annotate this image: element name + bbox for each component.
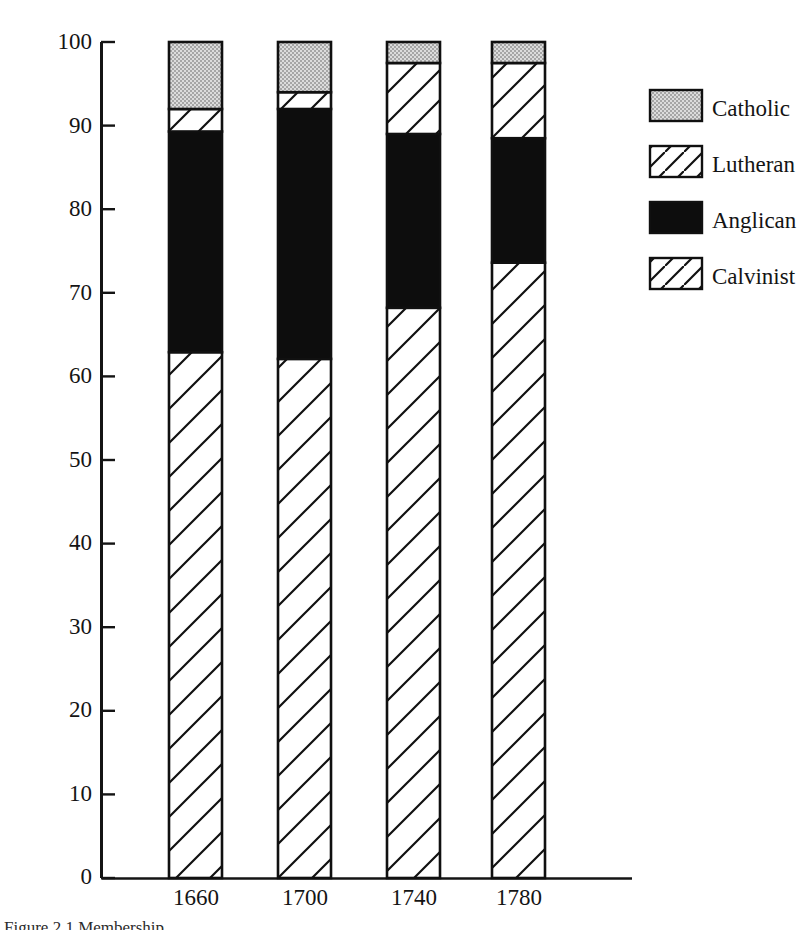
bar-1780-segment-calvinist <box>492 263 545 878</box>
legend-swatch-lutheran <box>650 146 702 177</box>
bar-1740-segment-catholic <box>387 42 440 63</box>
legend-item-calvinist: Calvinist <box>712 254 795 300</box>
bar-1740-segment-calvinist <box>387 308 440 878</box>
legend-label-anglican: Anglican <box>712 209 796 233</box>
bar-1740-segment-lutheran <box>387 63 440 134</box>
bar-1700 <box>278 42 331 878</box>
bar-1660 <box>169 42 222 878</box>
bar-1700-segment-calvinist <box>278 359 331 878</box>
bar-1780 <box>492 42 545 878</box>
legend-swatch-catholic <box>650 90 702 121</box>
bar-1700-segment-anglican <box>278 109 331 359</box>
bar-1660-segment-catholic <box>169 42 222 109</box>
bar-1700-segment-lutheran <box>278 92 331 109</box>
legend-item-anglican: Anglican <box>712 198 796 244</box>
plot-area <box>0 0 799 930</box>
bar-1780-segment-lutheran <box>492 63 545 138</box>
y-axis-ticks <box>101 42 115 878</box>
legend-swatch-calvinist <box>650 258 702 289</box>
figure-stacked-bar-chart: Percentage 100 90 80 70 60 50 40 30 20 1… <box>0 0 799 930</box>
legend-label-lutheran: Lutheran <box>712 153 795 177</box>
bar-1660-segment-anglican <box>169 132 222 353</box>
bar-1660-segment-lutheran <box>169 109 222 132</box>
legend-swatch-anglican <box>650 202 702 233</box>
legend-item-lutheran: Lutheran <box>712 142 795 188</box>
bar-1780-segment-anglican <box>492 138 545 263</box>
legend-swatches <box>650 90 702 289</box>
figure-caption: Figure 2.1 Membership <box>4 918 504 930</box>
bar-1700-segment-catholic <box>278 42 331 92</box>
bar-1740 <box>387 42 440 878</box>
legend-label-calvinist: Calvinist <box>712 265 795 289</box>
bar-1740-segment-anglican <box>387 134 440 308</box>
legend-label-catholic: Catholic <box>712 97 790 121</box>
bar-1780-segment-catholic <box>492 42 545 63</box>
legend-item-catholic: Catholic <box>712 86 790 132</box>
bar-1660-segment-calvinist <box>169 352 222 878</box>
